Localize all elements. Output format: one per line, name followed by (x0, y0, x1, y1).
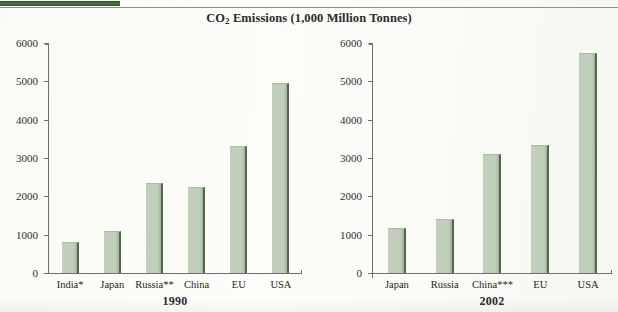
plot-area-1990: 0100020003000400050006000 (48, 44, 302, 274)
bar-japan (104, 231, 121, 273)
bar-usa (579, 53, 597, 273)
x-tick-label-group-1990: India*JapanRussia**ChinaEUUSA (49, 279, 302, 290)
header-rule (0, 7, 618, 8)
bar-slot (91, 44, 133, 273)
panel-period-label-1990: 1990 (48, 294, 302, 309)
bar-slot (469, 44, 517, 273)
bar-slot (421, 44, 469, 273)
bar-eu (531, 145, 549, 273)
bar-china (483, 154, 501, 273)
bar-slot (516, 44, 564, 273)
x-tick-label: India* (49, 279, 91, 290)
bar-slot (133, 44, 175, 273)
y-tick: 0 (368, 273, 373, 274)
page-edge-tab-highlight (0, 3, 120, 4)
x-tick-label-group-2002: JapanRussiaChina***EUUSA (373, 279, 612, 290)
y-tick-label: 0 (33, 267, 39, 279)
x-tick-label: China*** (469, 279, 517, 290)
y-tick: 0 (44, 273, 49, 274)
bar-china (188, 187, 205, 273)
x-axis-2002 (372, 273, 612, 274)
chart-panel-1990: 0100020003000400050006000 India*JapanRus… (2, 38, 308, 306)
y-tick-label: 1000 (16, 228, 38, 240)
chart-title: CO2 Emissions (1,000 Million Tonnes) (0, 11, 618, 26)
bar-russia (436, 219, 454, 273)
x-axis-left-cap-2002 (372, 274, 373, 278)
y-tick-label: 1000 (340, 228, 362, 240)
y-tick-label: 5000 (16, 75, 38, 87)
chart-panel-2002: 0100020003000400050006000 JapanRussiaChi… (312, 38, 616, 306)
bar-slot (49, 44, 91, 273)
bar-slot (260, 44, 302, 273)
y-tick-label: 5000 (340, 75, 362, 87)
x-tick-label: Russia (421, 279, 469, 290)
y-tick-label: 6000 (340, 37, 362, 49)
x-tick-label: Russia** (133, 279, 175, 290)
x-tick-label: Japan (91, 279, 133, 290)
plot-area-2002: 0100020003000400050006000 (372, 44, 612, 274)
bar-slot (218, 44, 260, 273)
bar-india (62, 242, 79, 273)
chart-title-suffix: Emissions (1,000 Million Tonnes) (230, 11, 412, 25)
bar-slot (176, 44, 218, 273)
x-tick-label: EU (218, 279, 260, 290)
x-tick-label: China (176, 279, 218, 290)
y-tick-label: 3000 (340, 152, 362, 164)
bar-group-1990 (49, 44, 302, 273)
cut-off-header-text (128, 0, 608, 5)
y-tick-label: 2000 (16, 190, 38, 202)
bar-russia (146, 183, 163, 273)
y-tick-label: 0 (357, 267, 363, 279)
x-tick-label: USA (260, 279, 302, 290)
panel-period-label-2002: 2002 (372, 294, 612, 309)
bar-group-2002 (373, 44, 612, 273)
bar-japan (388, 228, 406, 273)
y-tick-label: 4000 (16, 113, 38, 125)
x-axis-1990 (48, 273, 302, 274)
y-tick-label: 3000 (16, 152, 38, 164)
x-tick-label: USA (564, 279, 612, 290)
y-tick-label: 4000 (340, 113, 362, 125)
y-tick-label: 6000 (16, 37, 38, 49)
bar-slot (564, 44, 612, 273)
y-tick-label: 2000 (340, 190, 362, 202)
bar-usa (272, 83, 289, 273)
bar-slot (373, 44, 421, 273)
x-tick-label: Japan (373, 279, 421, 290)
x-tick-label: EU (516, 279, 564, 290)
chart-title-prefix: CO (206, 11, 225, 25)
bar-eu (230, 146, 247, 273)
